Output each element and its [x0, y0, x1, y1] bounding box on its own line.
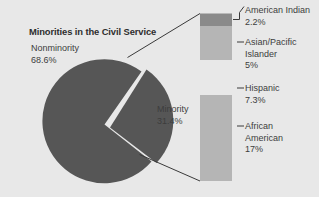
legend-label-asian-pacific-islander: Asian/Pacific	[245, 37, 297, 47]
legend-label-american-indian: American Indian	[245, 5, 310, 15]
pie-label-nonminority: Nonminority 68.6%	[31, 43, 79, 66]
bar-segment-hispanic	[200, 60, 232, 95]
legend-item-asian-pacific-islander: Asian/Pacific Islander 5%	[245, 37, 297, 72]
pie-label-minority-name: Minority	[157, 104, 189, 114]
legend-value-american-indian: 2.2%	[245, 17, 310, 29]
pie-label-minority: Minority 31.4%	[157, 104, 189, 127]
callout-connector-american-indian	[233, 7, 244, 20]
legend-value-hispanic: 7.3%	[245, 95, 280, 107]
legend-item-hispanic: Hispanic 7.3%	[245, 83, 280, 106]
legend-item-african-american: African American 17%	[245, 121, 283, 156]
legend-item-american-indian: American Indian 2.2%	[245, 5, 310, 28]
chart-title: Minorities in the Civil Service	[29, 26, 156, 37]
legend-label-hispanic: Hispanic	[245, 83, 280, 93]
pie-label-nonminority-name: Nonminority	[31, 43, 79, 53]
legend-label-african-american: African	[245, 121, 273, 131]
legend-value-african-american: 17%	[245, 144, 283, 156]
legend-value-asian-pacific-islander: 5%	[245, 60, 297, 72]
legend-label-african-american-line2: American	[245, 133, 283, 145]
pie-label-nonminority-value: 68.6%	[31, 55, 57, 65]
pie-label-minority-value: 31.4%	[157, 116, 183, 126]
bar-segment-asian-pacific-islander	[200, 26, 232, 60]
legend-label-asian-pacific-islander-line2: Islander	[245, 49, 297, 61]
leader-line-lower	[140, 155, 201, 182]
bar-segment-african-american	[200, 95, 232, 181]
bar-segment-american-indian	[200, 14, 232, 27]
chart-figure: Minorities in the Civil Service Nonminor…	[0, 0, 319, 197]
